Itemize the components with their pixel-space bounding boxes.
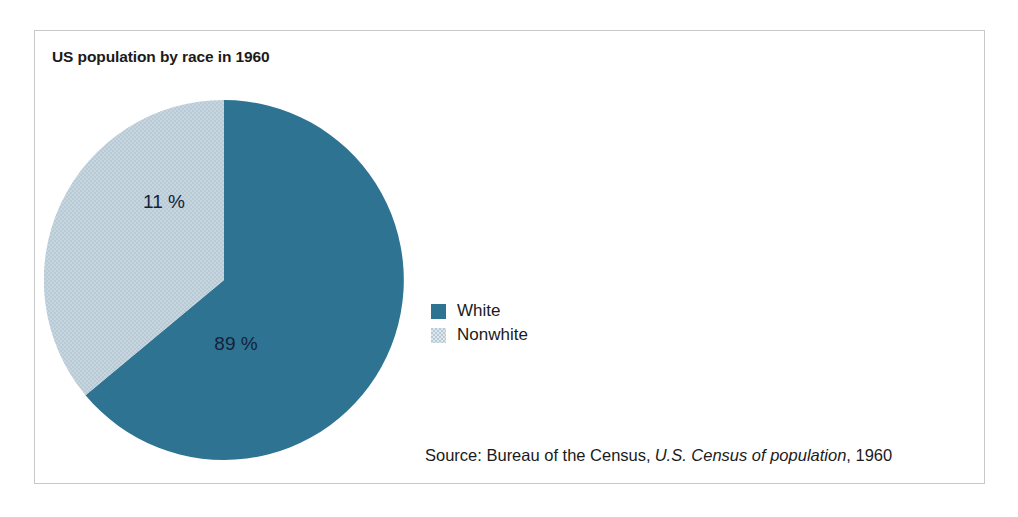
source-suffix: , 1960 xyxy=(846,446,892,464)
legend: White Nonwhite xyxy=(431,300,621,348)
source-publication-title: U.S. Census of population xyxy=(655,446,847,464)
pie-label-nonwhite: 11 % xyxy=(143,191,185,212)
legend-item-nonwhite[interactable]: Nonwhite xyxy=(431,324,621,346)
legend-swatch-icon xyxy=(431,328,446,343)
page-title: US population by race in 1960 xyxy=(52,48,270,66)
legend-item-label: Nonwhite xyxy=(457,325,528,345)
legend-item-label: White xyxy=(457,301,500,321)
pie-label-white: 89 % xyxy=(214,333,257,354)
chart-figure: US population by race in 1960 11 % 89 % … xyxy=(0,0,1018,517)
source-note: Source: Bureau of the Census,U.S. Census… xyxy=(425,446,892,465)
pie-chart: 11 % 89 % xyxy=(44,100,404,462)
legend-swatch-icon xyxy=(431,304,446,319)
source-prefix: Source: Bureau of the Census, xyxy=(425,446,651,464)
legend-item-white[interactable]: White xyxy=(431,300,621,322)
pie-chart-svg: 11 % 89 % xyxy=(44,100,404,462)
